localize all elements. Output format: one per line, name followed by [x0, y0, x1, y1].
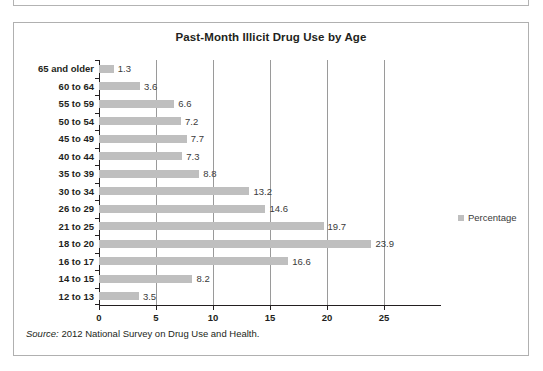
bar-value-label: 23.9	[375, 238, 394, 249]
category-label: 35 to 39	[14, 165, 98, 183]
bar-row: 14.6	[99, 200, 441, 218]
bar-row: 8.2	[99, 270, 441, 288]
value-tick	[384, 305, 385, 310]
bar	[99, 152, 182, 160]
value-tick-label: 25	[379, 312, 390, 323]
bar	[99, 275, 192, 283]
value-tick	[327, 305, 328, 310]
bar	[99, 187, 249, 195]
category-label: 65 and older	[14, 60, 98, 78]
bar	[99, 117, 181, 125]
value-tick	[213, 305, 214, 310]
value-tick-label: 0	[96, 312, 101, 323]
bar-row: 6.6	[99, 95, 441, 113]
value-tick-label: 15	[265, 312, 276, 323]
bar	[99, 82, 140, 90]
value-tick-label: 10	[208, 312, 219, 323]
bar	[99, 65, 114, 73]
bar-value-label: 7.7	[191, 133, 204, 144]
value-tick-label: 5	[153, 312, 158, 323]
category-axis: 65 and older60 to 6455 to 5950 to 5445 t…	[14, 60, 98, 305]
chart-title: Past-Month Illicit Drug Use by Age	[14, 31, 528, 43]
category-label: 60 to 64	[14, 78, 98, 96]
bar-value-label: 6.6	[178, 98, 191, 109]
bar-row: 7.2	[99, 113, 441, 131]
bar	[99, 257, 288, 265]
bar	[99, 205, 265, 213]
plot-wrapper: 65 and older60 to 6455 to 5950 to 5445 t…	[14, 60, 530, 310]
bar	[99, 100, 174, 108]
value-tick	[99, 305, 100, 310]
bar-row: 7.7	[99, 130, 441, 148]
category-label: 45 to 49	[14, 130, 98, 148]
bar-value-label: 3.5	[143, 291, 156, 302]
bar	[99, 292, 139, 300]
bar-value-label: 7.3	[186, 151, 199, 162]
legend-swatch-percentage	[458, 215, 464, 221]
bar-value-label: 8.8	[203, 168, 216, 179]
source-note: Source: 2012 National Survey on Drug Use…	[26, 328, 259, 339]
bar-row: 19.7	[99, 218, 441, 236]
bar-row: 13.2	[99, 183, 441, 201]
value-tick	[270, 305, 271, 310]
clipped-box-above	[13, 0, 529, 6]
bar-row: 3.5	[99, 288, 441, 306]
bar-series-percentage: 1.33.66.67.27.77.38.813.214.619.723.916.…	[99, 60, 441, 305]
value-tick-label: 20	[322, 312, 333, 323]
category-label: 14 to 15	[14, 270, 98, 288]
bar-value-label: 13.2	[253, 186, 272, 197]
bar	[99, 222, 324, 230]
bar-value-label: 1.3	[118, 63, 131, 74]
source-keyword: Source:	[26, 328, 59, 339]
bar-row: 16.6	[99, 253, 441, 271]
source-text: 2012 National Survey on Drug Use and Hea…	[59, 328, 260, 339]
bar-value-label: 7.2	[185, 116, 198, 127]
category-label: 26 to 29	[14, 200, 98, 218]
bar-row: 7.3	[99, 148, 441, 166]
category-label: 21 to 25	[14, 218, 98, 236]
legend-label-percentage: Percentage	[468, 212, 517, 223]
bar-value-label: 8.2	[196, 273, 209, 284]
bar-row: 3.6	[99, 78, 441, 96]
bar-value-label: 16.6	[292, 256, 311, 267]
bar-row: 8.8	[99, 165, 441, 183]
category-label: 30 to 34	[14, 183, 98, 201]
bar-value-label: 19.7	[328, 221, 347, 232]
value-tick	[156, 305, 157, 310]
bar-value-label: 14.6	[269, 203, 288, 214]
category-label: 40 to 44	[14, 148, 98, 166]
category-label: 55 to 59	[14, 95, 98, 113]
plot-area: 1.33.66.67.27.77.38.813.214.619.723.916.…	[99, 60, 441, 305]
bar	[99, 170, 199, 178]
category-label: 18 to 20	[14, 235, 98, 253]
category-label: 16 to 17	[14, 253, 98, 271]
category-label: 50 to 54	[14, 113, 98, 131]
bar	[99, 240, 371, 248]
bar	[99, 135, 187, 143]
bar-row: 23.9	[99, 235, 441, 253]
chart-figure-container: Past-Month Illicit Drug Use by Age 65 an…	[13, 22, 529, 356]
chart-legend: Percentage	[458, 212, 517, 223]
bar-value-label: 3.6	[144, 81, 157, 92]
category-label: 12 to 13	[14, 288, 98, 306]
bar-row: 1.3	[99, 60, 441, 78]
